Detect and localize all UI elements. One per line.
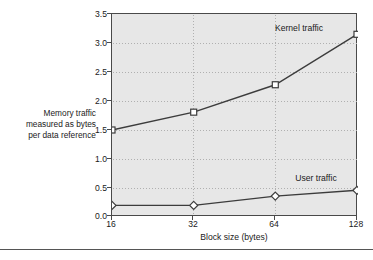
chart-figure: Memory traffic measured as bytes per dat… xyxy=(0,0,373,260)
data-point-marker xyxy=(190,201,198,209)
x-tick-label: 64 xyxy=(269,219,279,229)
y-tick-label: 2.0 xyxy=(81,97,107,106)
series-annotation-kernel-traffic: Kernel traffic xyxy=(275,23,323,33)
data-point-marker xyxy=(272,82,278,88)
series-line-user-traffic xyxy=(112,190,357,205)
series-line-kernel-traffic xyxy=(112,34,357,130)
plot-canvas xyxy=(112,14,358,217)
y-tick-label: 2.5 xyxy=(81,68,107,77)
series-annotation-user-traffic: User traffic xyxy=(295,173,336,183)
x-tick-label: 16 xyxy=(106,219,116,229)
y-tick-label: 3.0 xyxy=(81,39,107,48)
x-tick-label: 128 xyxy=(349,219,363,229)
data-point-marker xyxy=(112,127,115,133)
x-tick-label: 32 xyxy=(188,219,198,229)
y-tick-label: 1.5 xyxy=(81,126,107,135)
y-tick-label: 1.0 xyxy=(81,155,107,164)
plot-area xyxy=(111,13,357,216)
data-point-marker xyxy=(354,31,358,37)
data-point-marker xyxy=(112,201,116,209)
footer-divider xyxy=(0,249,373,250)
data-point-marker xyxy=(191,109,197,115)
y-tick-label: 3.5 xyxy=(81,10,107,19)
series-markers-kernel-traffic xyxy=(112,31,358,133)
x-axis-title: Block size (bytes) xyxy=(111,232,357,242)
horizontal-gridlines xyxy=(113,43,357,188)
data-point-marker xyxy=(271,192,279,200)
y-tick-label: 0.5 xyxy=(81,184,107,193)
x-axis-tick-labels: 16 32 64 128 xyxy=(0,219,373,233)
vertical-gridlines xyxy=(194,15,276,216)
